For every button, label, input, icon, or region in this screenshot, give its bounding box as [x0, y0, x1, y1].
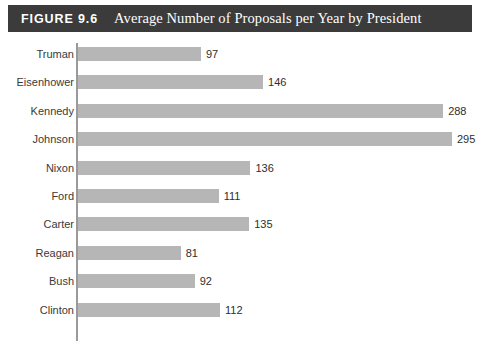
bar [78, 104, 443, 118]
bar-value-label: 112 [225, 296, 243, 324]
bar-row: Ford111 [0, 182, 489, 210]
chart-plot-area: Truman97Eisenhower146Kennedy288Johnson29… [0, 40, 489, 351]
figure-title: Average Number of Proposals per Year by … [114, 10, 421, 27]
figure-caption-bar: FIGURE 9.6 Average Number of Proposals p… [8, 5, 472, 32]
bar-category-label: Eisenhower [17, 68, 74, 96]
bar-row: Nixon136 [0, 154, 489, 182]
bar-row: Clinton112 [0, 296, 489, 324]
bar-row: Kennedy288 [0, 97, 489, 125]
bar-row: Eisenhower146 [0, 68, 489, 96]
bar [78, 75, 263, 89]
bar-category-label: Nixon [46, 154, 74, 182]
bar-row: Johnson295 [0, 125, 489, 153]
bar [78, 274, 195, 288]
bar-row: Reagan81 [0, 239, 489, 267]
bar-category-label: Clinton [40, 296, 74, 324]
bar-value-label: 111 [224, 182, 241, 210]
figure-container: FIGURE 9.6 Average Number of Proposals p… [0, 0, 489, 351]
bar [78, 47, 201, 61]
bar [78, 161, 250, 175]
bar-row: Bush92 [0, 267, 489, 295]
bar-row: Truman97 [0, 40, 489, 68]
bar-value-label: 135 [254, 210, 272, 238]
bar-category-label: Carter [43, 210, 74, 238]
bar [78, 246, 181, 260]
bar-value-label: 295 [457, 125, 475, 153]
bar [78, 217, 249, 231]
bar-value-label: 146 [268, 68, 286, 96]
bar [78, 303, 220, 317]
bar-category-label: Truman [37, 40, 75, 68]
bar-row: Carter135 [0, 210, 489, 238]
bar [78, 132, 452, 146]
bar-value-label: 288 [448, 97, 466, 125]
bar-value-label: 136 [255, 154, 273, 182]
bar-value-label: 81 [186, 239, 198, 267]
figure-number-label: FIGURE 9.6 [21, 12, 98, 26]
bar-category-label: Kennedy [31, 97, 74, 125]
bar [78, 189, 219, 203]
bar-value-label: 97 [206, 40, 218, 68]
bar-category-label: Reagan [35, 239, 74, 267]
bar-category-label: Ford [51, 182, 74, 210]
bar-category-label: Bush [49, 267, 74, 295]
bar-category-label: Johnson [32, 125, 74, 153]
bar-value-label: 92 [200, 267, 212, 295]
bar-rows: Truman97Eisenhower146Kennedy288Johnson29… [0, 40, 489, 324]
